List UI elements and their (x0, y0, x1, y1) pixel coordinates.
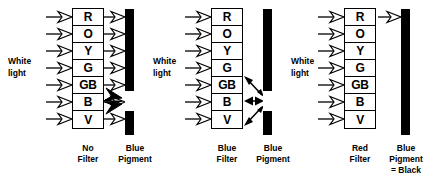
band-cell: V (212, 111, 242, 128)
pigment-window (125, 90, 134, 112)
band-cell: R (212, 9, 242, 26)
panel-no-filter: White light (0, 0, 145, 178)
band-cell: R (345, 9, 375, 26)
pigment-bar-3 (401, 9, 410, 135)
band-cell: Y (212, 43, 242, 60)
spectrum-column-3: R O Y G GB B V (344, 8, 376, 129)
pigment-label-line1: Blue (376, 143, 434, 154)
reflected-arrowheads (104, 88, 122, 114)
band-cell: O (73, 26, 103, 43)
band-cell: B (212, 94, 242, 111)
band-cell: O (345, 26, 375, 43)
band-cell: O (212, 26, 242, 43)
band-cell: B (73, 94, 103, 111)
band-cell: V (345, 111, 375, 128)
pigment-label-3: Blue Pigment = Black (376, 143, 434, 176)
band-cell: R (73, 9, 103, 26)
panel-blue-filter: White light (145, 0, 290, 178)
band-cell: V (73, 111, 103, 128)
band-cell: GB (212, 77, 242, 94)
pigment-bar-2 (263, 9, 272, 135)
band-cell: G (345, 60, 375, 77)
panel-red-filter: White light R O Y (290, 0, 434, 178)
spectrum-column-1: R O Y G GB B V (72, 8, 104, 129)
pigment-label-line3: = Black (376, 165, 434, 176)
band-cell: G (73, 60, 103, 77)
band-cell: B (345, 94, 375, 111)
band-cell: Y (345, 43, 375, 60)
pigment-bar-1 (125, 9, 134, 135)
band-cell: GB (345, 77, 375, 94)
pigment-label-line2: Pigment (376, 154, 434, 165)
band-cell: GB (73, 77, 103, 94)
band-cell: G (212, 60, 242, 77)
band-cell: Y (73, 43, 103, 60)
spectrum-column-2: R O Y G GB B V (211, 8, 243, 129)
pigment-window (263, 90, 272, 112)
